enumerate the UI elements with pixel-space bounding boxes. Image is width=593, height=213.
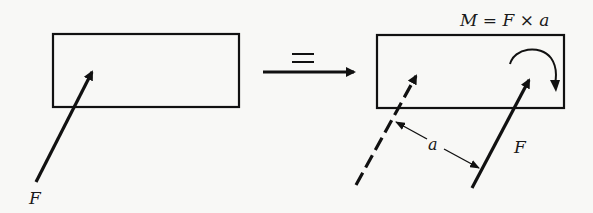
diagram-svg: F M = F × a F a	[0, 0, 593, 213]
translated-force-arrow	[472, 80, 529, 188]
distance-dimension-left	[396, 122, 427, 139]
moment-arrowhead	[550, 80, 560, 92]
translated-force-label: F	[513, 137, 527, 157]
moment-arrow-icon	[510, 49, 556, 84]
left-panel: F	[28, 34, 239, 208]
right-panel: M = F × a F a	[356, 10, 564, 188]
left-force-arrow	[36, 72, 92, 182]
equivalence-arrow	[263, 54, 354, 72]
left-force-label: F	[28, 188, 42, 208]
distance-dimension-right	[444, 149, 479, 168]
diagram-canvas: F M = F × a F a	[0, 0, 593, 213]
moment-equation-label: M = F × a	[459, 10, 549, 30]
original-force-dashed-line	[356, 76, 416, 185]
distance-label: a	[428, 135, 438, 154]
